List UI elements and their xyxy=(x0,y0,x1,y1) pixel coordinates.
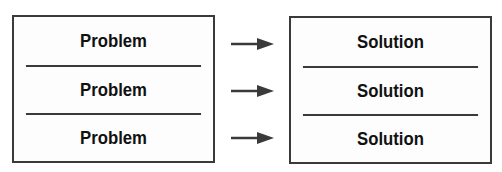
problem-box-2: Problem xyxy=(26,65,201,113)
arrow-right-icon xyxy=(231,37,275,51)
arrow-right-icon xyxy=(231,84,275,98)
solution-box-1: Solution xyxy=(303,18,478,66)
solution-column: Solution Solution Solution xyxy=(289,16,492,164)
arrow-right-icon xyxy=(231,131,275,145)
problem-box-1: Problem xyxy=(26,17,201,65)
solution-box-2: Solution xyxy=(303,66,478,114)
problem-column: Problem Problem Problem xyxy=(12,15,215,163)
solution-box-3: Solution xyxy=(303,114,478,162)
problem-box-3: Problem xyxy=(26,113,201,161)
